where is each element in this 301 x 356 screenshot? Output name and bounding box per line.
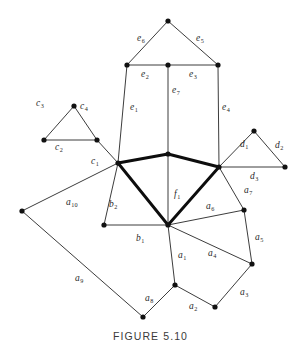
edge-label-a7: a7: [244, 186, 252, 196]
graph-vertex-v_apex: [165, 18, 170, 23]
edge-label-c4: c4: [80, 102, 88, 112]
edge-label-a4-subscript: 4: [213, 252, 216, 259]
graph-edge-e1: [118, 65, 127, 163]
edge-label-b1-subscript: 1: [141, 237, 144, 244]
edge-label-e4-base: e: [222, 102, 226, 112]
edge-label-a3: a3: [240, 288, 248, 298]
thin-edges-group: [22, 21, 285, 317]
edge-label-e1: e1: [130, 103, 138, 113]
edge-label-e2-subscript: 2: [146, 73, 149, 80]
thick-edges-group: [118, 154, 219, 225]
edge-label-a10: a10: [66, 198, 77, 208]
graph-edge-a1: [168, 225, 175, 285]
edge-label-e7: e7: [172, 86, 180, 96]
edge-label-a9-subscript: 9: [80, 277, 83, 284]
edge-label-a8-subscript: 8: [150, 297, 153, 304]
edge-label-e5-subscript: 5: [201, 37, 204, 44]
edge-label-c2-subscript: 2: [60, 146, 63, 153]
edge-label-c3: c3: [36, 99, 44, 109]
edge-label-e5: e5: [196, 34, 204, 44]
edge-label-d1: d1: [240, 140, 248, 150]
graph-vertex-v_top_left: [124, 62, 129, 67]
edge-label-e2: e2: [141, 70, 149, 80]
edge-label-c4-base: c: [80, 101, 84, 111]
graph-vertex-v_c_left: [41, 137, 46, 142]
edge-label-b2: b2: [109, 200, 117, 210]
edge-label-e1-base: e: [130, 102, 134, 112]
edge-label-e2-base: e: [141, 69, 145, 79]
edge-label-e5-base: e: [196, 33, 200, 43]
vertices-group: [19, 18, 287, 319]
edge-label-e3-base: e: [189, 69, 193, 79]
graph-edge-c1: [97, 140, 118, 163]
edge-label-a1-subscript: 1: [183, 254, 186, 261]
graph-edge-c3: [44, 106, 74, 140]
graph-vertex-v_right_low: [249, 261, 254, 266]
edge-label-e3: e3: [189, 70, 197, 80]
graph-vertex-v_diamond_top: [165, 151, 170, 156]
graph-vertex-v_c_right: [94, 137, 99, 142]
graph-vertex-v_left_hub: [115, 160, 120, 165]
edge-label-c4-subscript: 4: [85, 105, 88, 112]
edge-label-a8: a8: [145, 294, 153, 304]
edge-label-c1-subscript: 1: [96, 160, 99, 167]
edge-label-c2: c2: [55, 143, 63, 153]
graph-vertex-v_right_hub: [216, 164, 221, 169]
edge-label-c3-base: c: [36, 98, 40, 108]
graph-vertex-v_right_mid: [241, 207, 246, 212]
graph-edge-a3: [215, 264, 252, 307]
edge-label-e3-subscript: 3: [194, 73, 197, 80]
figure-caption: FIGURE 5.10: [0, 330, 301, 342]
graph-vertex-v_d_right: [282, 164, 287, 169]
graph-edge-e4: [218, 65, 219, 167]
edge-label-d2-subscript: 2: [280, 144, 283, 151]
graph-edge-f1: [118, 163, 168, 225]
graph-edge-a7: [219, 167, 244, 210]
edge-label-d3: d3: [250, 172, 258, 182]
edge-label-c3-subscript: 3: [41, 102, 44, 109]
edge-label-a6-subscript: 6: [211, 205, 214, 212]
graph-edge-f1: [168, 154, 219, 167]
edge-label-b2-subscript: 2: [114, 203, 117, 210]
edge-label-a2-subscript: 2: [194, 305, 197, 312]
edge-label-a6: a6: [206, 202, 214, 212]
graph-edge-a9: [22, 211, 143, 317]
edge-label-a5: a5: [255, 233, 263, 243]
graph-vertex-v_top_right: [215, 62, 220, 67]
edge-label-c1-base: c: [91, 156, 95, 166]
edge-label-e7-subscript: 7: [177, 89, 180, 96]
edge-label-d2: d2: [275, 141, 283, 151]
edge-label-e6-subscript: 6: [142, 37, 145, 44]
graph-vertex-v_center_hub: [165, 222, 170, 227]
edge-label-e7-base: e: [172, 85, 176, 95]
edge-label-a2: a2: [189, 302, 197, 312]
edge-label-a10-subscript: 10: [71, 201, 77, 208]
edge-label-e6: e6: [137, 34, 145, 44]
edge-label-a4: a4: [208, 249, 216, 259]
graph-edge-a5: [244, 210, 252, 264]
graph-edge-e6: [127, 21, 168, 65]
edge-label-e4-subscript: 4: [227, 106, 230, 113]
edge-label-c1: c1: [91, 157, 99, 167]
graph-vertex-v_top_mid: [165, 62, 170, 67]
edge-label-c2-base: c: [55, 142, 59, 152]
graph-vertex-v_bottom_mid: [172, 282, 177, 287]
edge-label-a5-subscript: 5: [260, 236, 263, 243]
graph-vertex-v_bottom_right: [212, 304, 217, 309]
graph-vertex-v_c_apex: [71, 103, 76, 108]
face-label-f1: f1: [174, 190, 180, 200]
edge-label-a3-subscript: 3: [245, 291, 248, 298]
edge-label-a1: a1: [178, 251, 186, 261]
graph-vertex-v_bottom_left: [140, 314, 145, 319]
edge-label-b1: b1: [136, 234, 144, 244]
graph-edge-d1: [219, 131, 254, 167]
edge-label-e6-base: e: [137, 33, 141, 43]
edge-label-a7-subscript: 7: [249, 189, 252, 196]
graph-edge-e5: [168, 21, 218, 65]
edge-label-e1-subscript: 1: [135, 106, 138, 113]
figure-container: e6e5e2e3e7e1e4c3c4c2c1d1d2d3f1b2b1a10a9a…: [0, 0, 301, 356]
graph-vertex-v_d_apex: [251, 128, 256, 133]
edge-label-d1-subscript: 1: [245, 143, 248, 150]
face-label-f1-subscript: 1: [177, 193, 180, 200]
edge-label-d3-subscript: 3: [255, 175, 258, 182]
